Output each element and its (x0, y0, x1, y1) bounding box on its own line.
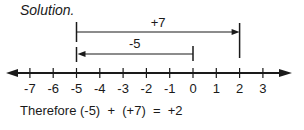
tick-label: -4 (94, 81, 106, 96)
tick-label: -7 (24, 81, 36, 96)
minus5-label: -5 (129, 36, 141, 51)
tick-label: -2 (141, 81, 153, 96)
plus7-label: +7 (151, 15, 166, 30)
number-line: -7-6-5-4-3-2-10123 (6, 68, 292, 96)
tick-label: 3 (259, 81, 266, 96)
arrows-group: +7-5 (77, 15, 240, 62)
tick-label: 2 (236, 81, 243, 96)
conclusion-text: Therefore (-5) + (+7) = +2 (20, 103, 183, 118)
solution-diagram: Solution. -7-6-5-4-3-2-10123 +7-5 Theref… (0, 0, 304, 130)
tick-label: 1 (213, 81, 220, 96)
axis-right-arrow-icon (279, 69, 292, 77)
minus5-arrowhead-icon (78, 51, 86, 57)
axis-left-arrow-icon (6, 69, 18, 77)
plus7-arrowhead-icon (232, 29, 240, 35)
tick-label: -1 (164, 81, 176, 96)
tick-label: -6 (47, 81, 59, 96)
tick-label: -3 (117, 81, 129, 96)
tick-label: -5 (71, 81, 83, 96)
tick-label: 0 (189, 81, 196, 96)
